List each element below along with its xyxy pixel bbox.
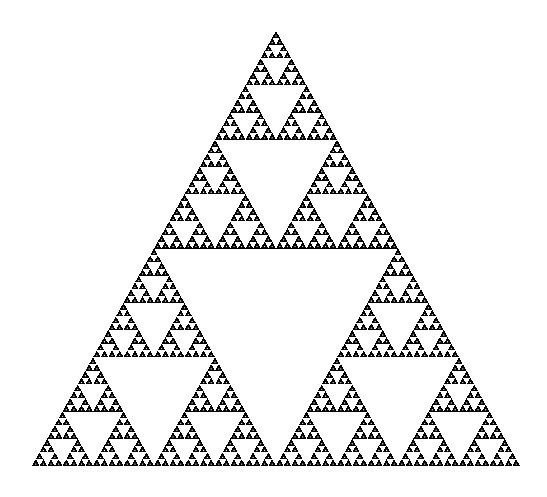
speckle-dot [165,355,166,356]
speckle-dot [218,137,219,138]
speckle-dot [516,463,517,464]
speckle-dot [184,198,185,199]
speckle-dot [172,355,173,356]
speckle-dot [142,287,143,288]
speckle-dot [352,443,353,444]
speckle-dot [382,226,383,227]
speckle-dot [230,117,231,118]
speckle-dot [100,457,101,458]
speckle-dot [397,253,398,254]
speckle-dot [352,334,353,335]
speckle-dot [302,110,303,111]
speckle-dot [439,396,440,397]
speckle-dot [146,294,147,295]
speckle-dot [180,300,181,301]
speckle-dot [119,314,120,315]
speckle-dot [432,355,433,356]
speckle-dot [340,192,341,193]
speckle-dot [371,205,372,206]
speckle-dot [188,192,189,193]
speckle-dot [191,457,192,458]
speckle-dot [85,402,86,403]
speckle-dot [348,450,349,451]
speckle-dot [249,137,250,138]
speckle-dot [443,443,444,444]
speckle-dot [394,300,395,301]
speckle-dot [378,463,379,464]
speckle-dot [363,246,364,247]
speckle-dot [424,436,425,437]
speckle-dot [329,375,330,376]
speckle-dot [73,409,74,410]
speckle-dot [279,463,280,464]
speckle-dot [157,273,158,274]
speckle-dot [371,314,372,315]
speckle-dot [386,450,387,451]
speckle-dot [313,402,314,403]
speckle-dot [355,178,356,179]
speckle-dot [371,463,372,464]
speckle-dot [355,192,356,193]
speckle-dot [474,443,475,444]
speckle-dot [233,396,234,397]
speckle-dot [443,334,444,335]
speckle-dot [302,96,303,97]
speckle-dot [405,348,406,349]
speckle-dot [363,463,364,464]
speckle-dot [85,375,86,376]
speckle-dot [66,463,67,464]
speckle-dot [371,423,372,424]
speckle-dot [172,300,173,301]
speckle-dot [222,158,223,159]
speckle-dot [325,178,326,179]
speckle-dot [150,273,151,274]
speckle-dot [203,178,204,179]
speckle-dot [344,239,345,240]
speckle-dot [195,463,196,464]
speckle-dot [496,429,497,430]
speckle-dot [134,328,135,329]
speckle-dot [180,328,181,329]
speckle-dot [199,389,200,390]
speckle-dot [81,463,82,464]
speckle-dot [390,348,391,349]
speckle-dot [73,463,74,464]
speckle-dot [172,328,173,329]
speckle-dot [138,443,139,444]
speckle-dot [317,436,318,437]
speckle-dot [203,396,204,397]
speckle-dot [233,232,234,233]
speckle-dot [195,450,196,451]
speckle-dot [233,178,234,179]
speckle-dot [291,117,292,118]
speckle-dot [409,273,410,274]
speckle-dot [142,355,143,356]
speckle-dot [165,246,166,247]
speckle-dot [203,341,204,342]
speckle-dot [363,205,364,206]
speckle-dot [203,232,204,233]
speckle-dot [252,103,253,104]
speckle-dot [85,457,86,458]
speckle-dot [211,382,212,383]
speckle-dot [378,341,379,342]
speckle-dot [348,341,349,342]
speckle-dot [73,450,74,451]
speckle-dot [317,232,318,233]
speckle-dot [371,355,372,356]
speckle-dot [348,355,349,356]
speckle-dot [329,239,330,240]
speckle-dot [191,185,192,186]
speckle-dot [302,137,303,138]
speckle-dot [287,83,288,84]
speckle-dot [333,368,334,369]
speckle-dot [96,368,97,369]
speckle-dot [336,144,337,145]
speckle-dot [188,205,189,206]
speckle-dot [180,423,181,424]
speckle-dot [455,409,456,410]
speckle-dot [241,463,242,464]
speckle-dot [111,355,112,356]
speckle-dot [287,450,288,451]
speckle-dot [211,463,212,464]
